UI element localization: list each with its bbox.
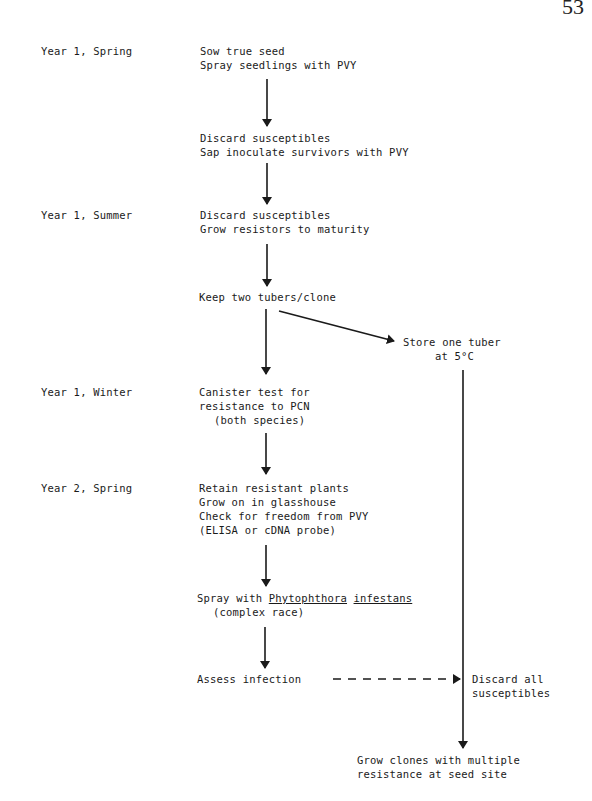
arrow-diagonal-icon [279,311,394,341]
flow-arrows [0,0,592,801]
